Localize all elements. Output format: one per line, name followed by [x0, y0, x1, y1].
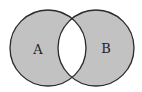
set-b-label: B	[101, 41, 111, 56]
set-a-label: A	[32, 42, 43, 57]
venn-diagram: A B	[0, 0, 142, 92]
